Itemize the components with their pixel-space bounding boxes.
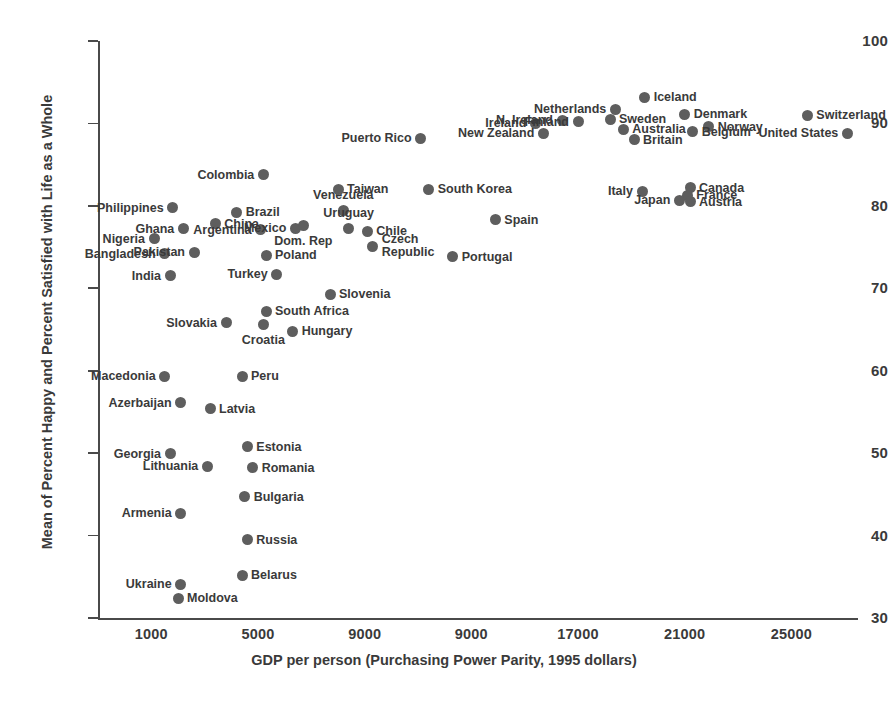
data-point-label: India: [132, 269, 161, 282]
data-point[interactable]: [685, 196, 696, 207]
data-point[interactable]: [415, 133, 426, 144]
data-point-label: Japan: [634, 194, 670, 207]
data-point[interactable]: [629, 134, 640, 145]
data-point[interactable]: [165, 448, 176, 459]
data-point[interactable]: [242, 441, 253, 452]
data-point[interactable]: [247, 462, 258, 473]
data-point-label: Slovenia: [339, 288, 390, 301]
plot-area: PhilippinesBrazilChinaGhanaNigeriaBangla…: [0, 0, 888, 708]
data-point[interactable]: [490, 214, 501, 225]
data-point-label: Belgium: [702, 125, 751, 138]
data-point-label: Pakistan: [134, 246, 185, 259]
data-point[interactable]: [173, 593, 184, 604]
data-point-label: Turkey: [228, 268, 268, 281]
data-point[interactable]: [237, 570, 248, 581]
data-point[interactable]: [674, 195, 685, 206]
data-point-label: Puerto Rico: [342, 132, 412, 145]
data-point[interactable]: [221, 317, 232, 328]
data-point[interactable]: [242, 534, 253, 545]
data-point[interactable]: [325, 289, 336, 300]
data-point[interactable]: [605, 114, 616, 125]
data-point-label: Lithuania: [143, 460, 199, 473]
data-point-label: Spain: [504, 213, 538, 226]
data-point-label: Belarus: [251, 569, 297, 582]
data-point[interactable]: [802, 110, 813, 121]
data-point-label: Moldova: [187, 592, 238, 605]
data-point[interactable]: [679, 109, 690, 120]
data-point-label: Netherlands: [534, 103, 606, 116]
data-point[interactable]: [189, 247, 200, 258]
data-point-label: South Korea: [438, 183, 512, 196]
data-point-label: Philippines: [97, 201, 164, 214]
data-point-label: Taiwan: [347, 183, 388, 196]
data-point-label: Uruguay: [323, 207, 374, 220]
data-point-label: New Zealand: [458, 127, 534, 140]
data-point[interactable]: [167, 202, 178, 213]
data-point[interactable]: [538, 128, 549, 139]
data-point[interactable]: [202, 461, 213, 472]
data-point-label: Hungary: [302, 325, 353, 338]
data-point[interactable]: [149, 233, 160, 244]
data-point-label: Latvia: [219, 402, 255, 415]
data-point[interactable]: [687, 126, 698, 137]
data-point[interactable]: [258, 319, 269, 330]
data-point-label: Peru: [251, 370, 279, 383]
data-point[interactable]: [423, 184, 434, 195]
data-point[interactable]: [447, 251, 458, 262]
data-point[interactable]: [178, 223, 189, 234]
data-point[interactable]: [237, 371, 248, 382]
data-point[interactable]: [367, 241, 378, 252]
data-point[interactable]: [573, 116, 584, 127]
data-point[interactable]: [271, 269, 282, 280]
data-point[interactable]: [298, 220, 309, 231]
data-point-label: South Africa: [275, 305, 349, 318]
data-point-label: Romania: [262, 461, 315, 474]
data-point-label: Argentina: [193, 223, 251, 236]
data-point[interactable]: [333, 184, 344, 195]
data-point-label: Azerbaijan: [108, 396, 171, 409]
data-point-label: CzechRepublic: [382, 233, 435, 259]
data-point-label: Slovakia: [166, 316, 217, 329]
data-point-label: Dom. Rep: [274, 235, 332, 248]
data-point[interactable]: [639, 92, 650, 103]
data-point[interactable]: [258, 169, 269, 180]
data-point-label: Nigeria: [103, 232, 145, 245]
data-point[interactable]: [287, 326, 298, 337]
data-point-label: Austria: [699, 195, 742, 208]
data-point-label: Russia: [256, 533, 297, 546]
data-point-label: Macedonia: [91, 370, 156, 383]
data-point[interactable]: [261, 250, 272, 261]
data-point[interactable]: [343, 223, 354, 234]
happiness-gdp-scatter-chart: 10090807060504030 Mean of Percent Happy …: [0, 0, 888, 708]
data-point-label: Portugal: [462, 250, 513, 263]
data-point[interactable]: [159, 371, 170, 382]
data-point[interactable]: [842, 128, 853, 139]
data-point[interactable]: [261, 306, 272, 317]
data-point-label: Bulgaria: [254, 490, 304, 503]
data-point[interactable]: [175, 579, 186, 590]
data-point-label: Iceland: [654, 91, 697, 104]
data-point-label: United States: [758, 127, 838, 140]
data-point[interactable]: [618, 124, 629, 135]
data-point-label: Switzerland: [816, 109, 885, 122]
data-point-label: Poland: [275, 249, 317, 262]
data-point-label: Armenia: [122, 507, 172, 520]
data-point[interactable]: [362, 226, 373, 237]
data-point[interactable]: [175, 397, 186, 408]
data-point-label: Estonia: [256, 440, 301, 453]
data-point-label: Italy: [608, 185, 633, 198]
data-point-label: Ukraine: [126, 578, 172, 591]
data-point-label: Colombia: [197, 168, 254, 181]
data-point[interactable]: [239, 491, 250, 502]
data-point-label: Croatia: [242, 334, 285, 347]
data-point[interactable]: [175, 508, 186, 519]
data-point[interactable]: [165, 270, 176, 281]
data-point-label: Britain: [643, 133, 683, 146]
data-point[interactable]: [205, 403, 216, 414]
data-point-label: Finland: [525, 115, 569, 128]
